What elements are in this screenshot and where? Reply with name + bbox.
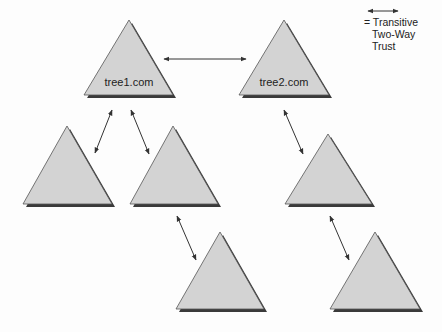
child-domain-3 <box>130 126 221 207</box>
tree-tree1.com: tree1.com <box>84 20 176 98</box>
triangle-shape <box>23 126 112 204</box>
trust-arrow-c2-c4 <box>177 216 196 260</box>
trust-diagram: tree1.comtree2.com = Transitive Two-Way … <box>0 0 442 332</box>
trust-arrow-t1-c2 <box>131 110 149 154</box>
tree-label: tree1.com <box>105 76 154 88</box>
child-domain-4 <box>285 134 375 207</box>
child-domain-6 <box>330 232 423 312</box>
legend-line-3: Trust <box>364 40 418 52</box>
domain-trees: tree1.comtree2.com <box>23 20 423 312</box>
tree-tree2.com: tree2.com <box>239 20 332 98</box>
triangle-shape <box>130 126 218 204</box>
trust-arrow-t1-c1 <box>95 110 112 153</box>
legend-line-1: = Transitive <box>364 16 418 28</box>
triangle-shape <box>330 232 420 309</box>
triangle-shape <box>285 134 372 204</box>
child-domain-5 <box>176 232 267 312</box>
tree-label: tree2.com <box>260 76 309 88</box>
trust-arrow-c3-c5 <box>330 216 349 260</box>
legend: = Transitive Two-Way Trust <box>364 16 418 52</box>
trust-arrow-t2-c3 <box>284 110 303 154</box>
legend-line-2: Two-Way <box>364 28 418 40</box>
